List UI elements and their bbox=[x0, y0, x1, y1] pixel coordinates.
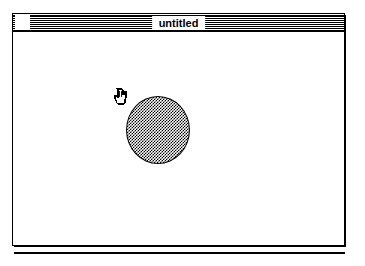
drawing-canvas[interactable] bbox=[13, 33, 344, 245]
hand-cursor-icon bbox=[113, 88, 131, 108]
window-title: untitled bbox=[152, 16, 206, 30]
window-titlebar[interactable]: untitled bbox=[13, 14, 344, 32]
ellipse-shape[interactable] bbox=[126, 96, 190, 164]
bottom-separator-rule bbox=[14, 252, 345, 254]
desktop-canvas: untitled bbox=[0, 0, 365, 266]
document-window[interactable]: untitled bbox=[12, 13, 345, 246]
close-box-icon[interactable] bbox=[17, 17, 28, 28]
